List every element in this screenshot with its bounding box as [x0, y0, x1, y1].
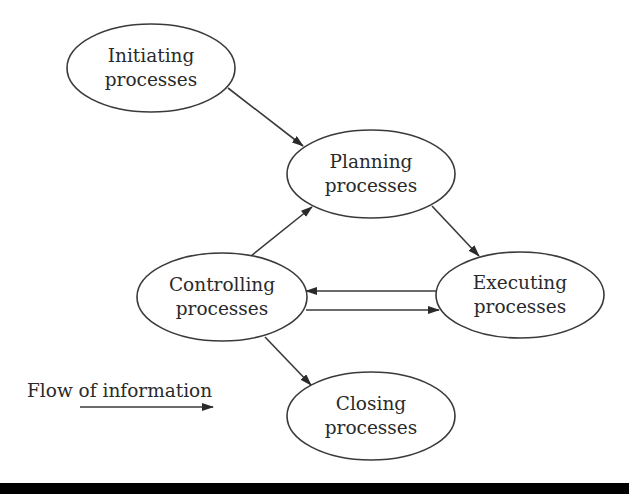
node-controlling-shape [137, 253, 307, 341]
node-executing-label-line1: Executing [473, 272, 567, 293]
edge-controlling-to-closing [265, 337, 311, 385]
node-controlling: Controlling processes [137, 253, 307, 341]
bottom-border-bar [0, 483, 629, 494]
node-initiating-label-line1: Initiating [108, 45, 195, 66]
node-planning-label-line1: Planning [330, 151, 413, 172]
process-flow-diagram: Initiating processes Planning processes … [0, 0, 629, 494]
node-executing: Executing processes [436, 252, 604, 338]
node-planning-label-line2: processes [325, 175, 418, 196]
node-controlling-label-line2: processes [176, 298, 269, 319]
node-initiating: Initiating processes [67, 24, 235, 112]
node-controlling-label-line1: Controlling [169, 274, 275, 295]
node-closing-label-line2: processes [325, 417, 418, 438]
node-planning: Planning processes [287, 130, 455, 218]
edge-planning-to-executing [432, 206, 479, 256]
legend: Flow of information [27, 380, 213, 407]
node-closing-shape [287, 372, 455, 460]
node-initiating-label-line2: processes [105, 69, 198, 90]
node-closing: Closing processes [287, 372, 455, 460]
edge-controlling-to-planning [251, 207, 312, 256]
node-closing-label-line1: Closing [336, 393, 407, 414]
node-executing-shape [436, 252, 604, 338]
node-executing-label-line2: processes [474, 296, 567, 317]
node-initiating-shape [67, 24, 235, 112]
node-planning-shape [287, 130, 455, 218]
edge-initiating-to-planning [228, 88, 303, 146]
legend-label: Flow of information [27, 380, 212, 401]
